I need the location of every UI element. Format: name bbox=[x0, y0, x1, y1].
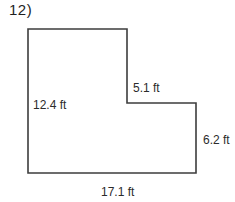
dimension-label-notch-side: 5.1 ft bbox=[133, 81, 160, 95]
dimension-label-left-side: 12.4 ft bbox=[33, 98, 66, 112]
dimension-label-right-side: 6.2 ft bbox=[203, 133, 230, 147]
dimension-label-bottom-side: 17.1 ft bbox=[101, 185, 134, 199]
worksheet-problem: 12) 12.4 ft 5.1 ft 6.2 ft 17.1 ft bbox=[0, 0, 235, 202]
